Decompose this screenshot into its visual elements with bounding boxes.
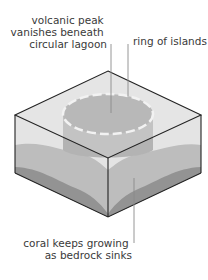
atoll-diagram: volcanic peak vanishes beneath circular … (0, 0, 208, 280)
label-volcanic-peak: volcanic peak vanishes beneath circular … (11, 14, 107, 50)
label-ring-of-islands: ring of islands (133, 35, 207, 47)
label-coral: coral keeps growing as bedrock sinks (23, 237, 132, 261)
